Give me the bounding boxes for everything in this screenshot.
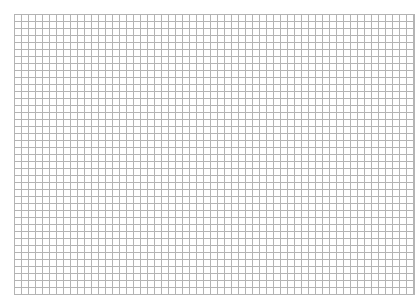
grid-area [14,14,415,295]
graph-paper-sheet [0,0,420,303]
